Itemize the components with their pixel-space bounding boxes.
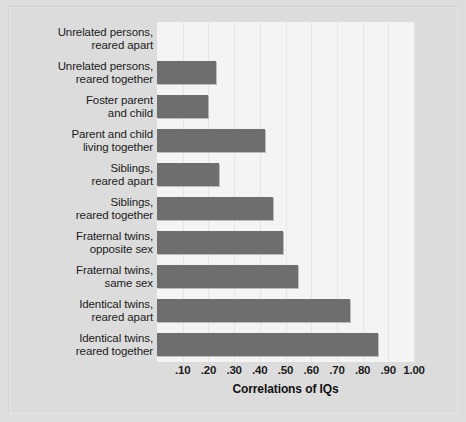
category-label-line: reared together xyxy=(76,345,153,359)
x-tick-label: .30 xyxy=(226,364,241,376)
bar-row xyxy=(157,192,414,226)
category-label-line: Siblings, xyxy=(110,196,153,210)
x-axis-tick-labels: .10.20.30.40.50.60.70.80.901.00 xyxy=(157,364,414,382)
bar xyxy=(157,265,298,288)
bar-row xyxy=(157,56,414,90)
category-label-line: living together xyxy=(83,141,153,155)
chart-figure: Unrelated persons,reared apartUnrelated … xyxy=(0,0,466,422)
category-label-line: Identical twins, xyxy=(79,332,153,346)
category-label-line: same sex xyxy=(105,277,153,291)
bar-row xyxy=(157,22,414,56)
category-label-line: Siblings, xyxy=(110,162,153,176)
category-label: Parent and childliving together xyxy=(20,124,153,158)
bar-row xyxy=(157,158,414,192)
bar-series xyxy=(157,22,414,362)
bar-row xyxy=(157,328,414,362)
bar xyxy=(157,231,283,254)
bar xyxy=(157,95,208,118)
category-label: Unrelated persons,reared together xyxy=(20,56,153,90)
category-label-line: Identical twins, xyxy=(79,298,153,312)
x-tick-label: .60 xyxy=(303,364,318,376)
category-axis-labels: Unrelated persons,reared apartUnrelated … xyxy=(20,22,153,362)
x-tick-label: 1.00 xyxy=(403,364,425,376)
category-label: Siblings,reared together xyxy=(20,192,153,226)
category-label: Siblings,reared apart xyxy=(20,158,153,192)
x-tick-label: .10 xyxy=(175,364,190,376)
category-label-line: reared together xyxy=(76,73,153,87)
category-label: Fraternal twins,same sex xyxy=(20,260,153,294)
gridline xyxy=(414,22,415,362)
category-label-line: Fraternal twins, xyxy=(76,264,153,278)
bar-row xyxy=(157,226,414,260)
category-label: Identical twins,reared apart xyxy=(20,294,153,328)
category-label-line: Foster parent xyxy=(86,94,153,108)
category-label-line: reared apart xyxy=(92,311,153,325)
category-label-line: and child xyxy=(108,107,153,121)
category-label: Unrelated persons,reared apart xyxy=(20,22,153,56)
bar-row xyxy=(157,124,414,158)
category-label: Fraternal twins,opposite sex xyxy=(20,226,153,260)
category-label-line: Parent and child xyxy=(71,128,153,142)
category-label-line: Unrelated persons, xyxy=(58,60,153,74)
x-tick-label: .40 xyxy=(252,364,267,376)
bar xyxy=(157,61,216,84)
x-tick-label: .70 xyxy=(329,364,344,376)
category-label-line: opposite sex xyxy=(90,243,153,257)
x-tick-label: .80 xyxy=(355,364,370,376)
bar-row xyxy=(157,294,414,328)
category-label-line: Fraternal twins, xyxy=(76,230,153,244)
x-tick-label: .90 xyxy=(381,364,396,376)
bar xyxy=(157,163,219,186)
bar-row xyxy=(157,260,414,294)
bar xyxy=(157,333,378,356)
bar-row xyxy=(157,90,414,124)
bar xyxy=(157,129,265,152)
category-label-line: Unrelated persons, xyxy=(58,26,153,40)
bar xyxy=(157,299,350,322)
bar xyxy=(157,197,273,220)
x-tick-label: .20 xyxy=(201,364,216,376)
category-label: Foster parentand child xyxy=(20,90,153,124)
category-label-line: reared together xyxy=(76,209,153,223)
category-label-line: reared apart xyxy=(92,39,153,53)
x-axis-title: Correlations of IQs xyxy=(157,382,414,396)
category-label: Identical twins,reared together xyxy=(20,328,153,362)
x-tick-label: .50 xyxy=(278,364,293,376)
category-label-line: reared apart xyxy=(92,175,153,189)
plot-area xyxy=(157,22,414,362)
